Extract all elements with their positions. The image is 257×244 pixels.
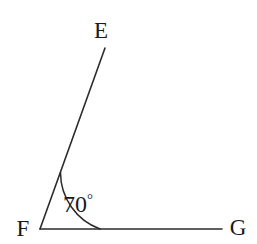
angle-measure-label: 70° bbox=[63, 191, 93, 217]
vertex-label-f: F bbox=[17, 216, 30, 241]
vertex-label-e: E bbox=[94, 18, 108, 43]
degree-symbol: ° bbox=[87, 191, 93, 207]
vertex-label-g: G bbox=[230, 215, 247, 240]
angle-diagram-canvas: E F G 70° bbox=[0, 0, 257, 244]
angle-diagram-figure: E F G 70° bbox=[0, 0, 257, 244]
angle-value-text: 70 bbox=[63, 191, 87, 217]
